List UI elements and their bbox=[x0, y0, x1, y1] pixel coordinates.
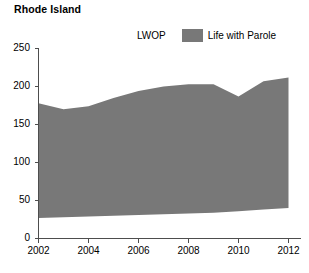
x-tick-label-2012: 2012 bbox=[269, 245, 309, 256]
x-tick-label-2002: 2002 bbox=[19, 245, 59, 256]
y-tick-label-150: 150 bbox=[4, 118, 30, 129]
x-tick-label-2010: 2010 bbox=[219, 245, 259, 256]
chart-figure: Rhode Island LWOP Life with Parole 05010… bbox=[0, 0, 309, 273]
area-series-group bbox=[39, 77, 289, 218]
y-tick-label-250: 250 bbox=[4, 42, 30, 53]
x-tick-label-2008: 2008 bbox=[169, 245, 209, 256]
x-tick-label-2004: 2004 bbox=[69, 245, 109, 256]
y-tick-label-100: 100 bbox=[4, 156, 30, 167]
y-tick-label-0: 0 bbox=[4, 232, 30, 243]
plot-area bbox=[0, 0, 309, 273]
x-tick-label-2006: 2006 bbox=[119, 245, 159, 256]
y-tick-label-200: 200 bbox=[4, 80, 30, 91]
area-band-life-with-parole bbox=[39, 77, 289, 218]
y-tick-label-50: 50 bbox=[4, 194, 30, 205]
